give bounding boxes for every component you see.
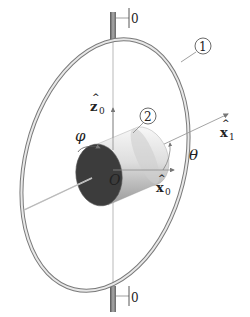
rotor-cylinder [24,125,169,210]
svg-text:z: z [90,99,97,114]
bottom-fixed-label: 0 [131,291,139,305]
top-support: 0 [110,8,139,40]
theta-label: θ [189,146,198,164]
gimbal-diagram: 0 0 1 2 [0,0,250,317]
ring-callout-number: 1 [199,40,207,54]
origin-label: O [109,172,121,188]
ring-callout: 1 [181,38,211,62]
z0-label: ^ z 0 [90,92,105,116]
phi-label: φ [75,127,86,145]
svg-text:x: x [220,125,228,140]
bottom-support: 0 [110,286,139,312]
svg-text:0: 0 [165,187,171,197]
svg-text:1: 1 [229,132,235,142]
svg-text:x: x [156,180,164,195]
svg-text:0: 0 [99,106,105,116]
x0-label: ^ x 0 [156,173,171,197]
x1-label: ^ x 1 [220,118,235,142]
top-fixed-label: 0 [131,12,139,26]
rotor-callout-number: 2 [144,110,152,124]
